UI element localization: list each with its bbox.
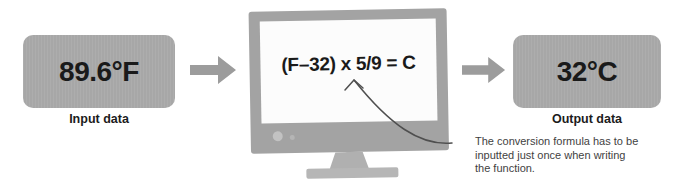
annotation-line: The conversion formula has to be bbox=[475, 135, 675, 149]
input-data-box: 89.6°F bbox=[23, 35, 175, 108]
arrow-right-icon bbox=[190, 54, 237, 86]
arrow-right-icon bbox=[462, 54, 506, 86]
monitor-base bbox=[306, 167, 398, 179]
input-data-label: Input data bbox=[23, 112, 175, 126]
output-data-box: 32°C bbox=[513, 35, 661, 108]
output-data-label: Output data bbox=[513, 112, 661, 126]
conversion-formula: (F–32) x 5/9 = C bbox=[260, 51, 436, 76]
annotation-line: the function. bbox=[475, 162, 675, 176]
power-button-icon bbox=[273, 131, 283, 141]
input-value: 89.6°F bbox=[59, 56, 139, 88]
conversion-flow-diagram: 89.6°F Input data (F–32) x 5/9 = C 32°C … bbox=[0, 0, 687, 187]
annotation-line: inputted just once when writing bbox=[475, 149, 675, 163]
indicator-dot-icon bbox=[289, 134, 294, 139]
computer-monitor: (F–32) x 5/9 = C bbox=[249, 6, 450, 181]
annotation-text: The conversion formula has to be inputte… bbox=[475, 135, 675, 176]
output-value: 32°C bbox=[557, 56, 618, 88]
